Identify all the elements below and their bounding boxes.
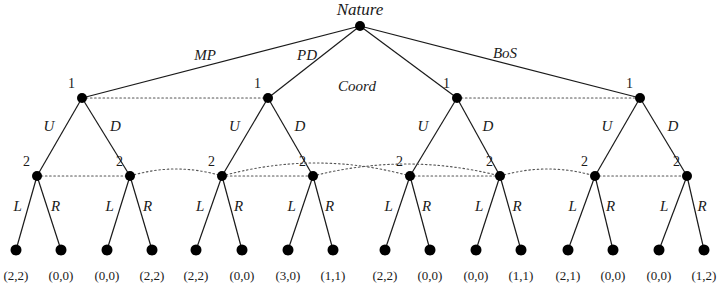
node-terminal-3 (102, 245, 113, 256)
label-action-R-MP-u: R (51, 198, 60, 215)
edge-D-PD (268, 98, 313, 176)
node-player2-Coord-D (495, 171, 505, 181)
node-player1-PD (263, 93, 273, 103)
label-player2-Coord-D: 2 (486, 154, 493, 170)
tree-edges (16, 26, 704, 250)
payoff-8: (1,1) (321, 268, 346, 284)
node-terminal-4 (147, 245, 158, 256)
payoff-13: (2,1) (556, 268, 581, 284)
payoff-14: (0,0) (601, 268, 626, 284)
label-action-R-MP-d: R (143, 198, 152, 215)
node-terminal-12 (516, 245, 527, 256)
label-action-R-PD-u: R (234, 198, 243, 215)
label-action-L-Coord-d: L (475, 198, 483, 215)
edge-U-BoS (595, 98, 640, 176)
node-nature (355, 21, 365, 31)
game-tree-figure: NatureMPPDCoordBoS122UD122UD122UD122UDLR… (0, 0, 723, 286)
label-player1-MP: 1 (68, 76, 75, 92)
infoset-arc-1 (130, 169, 222, 176)
node-player2-MP-U (32, 171, 42, 181)
payoff-6: (0,0) (230, 268, 255, 284)
label-player1-PD: 1 (254, 76, 261, 92)
label-action-R-PD-d: R (325, 198, 334, 215)
node-terminal-6 (237, 245, 248, 256)
node-player2-PD-U (217, 171, 227, 181)
label-action-L-Coord-u: L (385, 198, 393, 215)
label-action-R-Coord-d: R (513, 198, 522, 215)
edge-D-Coord (457, 98, 500, 176)
node-player2-Coord-U (405, 171, 415, 181)
label-action-D-BoS: D (668, 118, 679, 135)
payoff-5: (2,2) (184, 268, 209, 284)
label-action-L-MP-d: L (106, 198, 114, 215)
payoff-row: (2,2)(0,0)(0,0)(2,2)(2,2)(0,0)(3,0)(1,1)… (0, 268, 723, 286)
node-terminal-11 (471, 245, 482, 256)
node-player2-BoS-D (682, 171, 692, 181)
label-branch-BoS: BoS (493, 45, 517, 62)
node-terminal-1 (11, 245, 22, 256)
label-action-D-MP: D (110, 118, 121, 135)
node-player1-MP (77, 93, 87, 103)
label-player2-MP-U: 2 (23, 154, 30, 170)
label-action-L-MP-u: L (14, 198, 22, 215)
infoset-arc-4 (500, 169, 595, 176)
node-terminal-5 (191, 245, 202, 256)
label-action-R-BoS-d: R (698, 198, 707, 215)
node-terminal-13 (563, 245, 574, 256)
label-player2-MP-D: 2 (116, 154, 123, 170)
node-player2-MP-D (125, 171, 135, 181)
node-player2-PD-D (308, 171, 318, 181)
label-player2-BoS-U: 2 (581, 154, 588, 170)
edge-U-PD (222, 98, 268, 176)
payoff-16: (1,2) (692, 268, 717, 284)
payoff-11: (0,0) (464, 268, 489, 284)
payoff-1: (2,2) (4, 268, 29, 284)
node-terminal-15 (654, 245, 665, 256)
payoff-9: (2,2) (373, 268, 398, 284)
payoff-12: (1,1) (509, 268, 534, 284)
node-terminal-16 (699, 245, 710, 256)
node-player1-Coord (452, 93, 462, 103)
label-branch-PD: PD (297, 47, 317, 64)
label-player1-BoS: 1 (626, 76, 633, 92)
nature-edge-BoS (360, 26, 640, 98)
edge-U-MP (37, 98, 82, 176)
node-terminal-7 (283, 245, 294, 256)
payoff-2: (0,0) (49, 268, 74, 284)
information-set-links (37, 98, 687, 176)
node-player1-BoS (635, 93, 645, 103)
label-action-U-PD: U (229, 118, 240, 135)
node-terminal-8 (328, 245, 339, 256)
payoff-7: (3,0) (276, 268, 301, 284)
label-action-L-BoS-u: L (569, 198, 577, 215)
label-action-U-MP: U (44, 118, 55, 135)
node-terminal-9 (380, 245, 391, 256)
label-branch-Coord: Coord (338, 78, 376, 95)
tree-nodes (11, 21, 710, 256)
label-action-R-Coord-u: R (422, 198, 431, 215)
payoff-15: (0,0) (647, 268, 672, 284)
label-player2-PD-D: 2 (299, 154, 306, 170)
label-player2-PD-U: 2 (208, 154, 215, 170)
label-player2-Coord-U: 2 (396, 154, 403, 170)
label-action-D-Coord: D (483, 118, 494, 135)
label-action-U-Coord: U (418, 118, 429, 135)
label-nature: Nature (337, 0, 384, 20)
label-action-D-PD: D (295, 118, 306, 135)
node-terminal-2 (56, 245, 67, 256)
label-action-L-PD-d: L (288, 198, 296, 215)
node-terminal-10 (425, 245, 436, 256)
payoff-3: (0,0) (95, 268, 120, 284)
node-player2-BoS-U (590, 171, 600, 181)
label-action-L-PD-u: L (196, 198, 204, 215)
label-action-L-BoS-d: L (660, 198, 668, 215)
tree-canvas (0, 0, 723, 286)
label-branch-MP: MP (194, 47, 216, 64)
label-action-R-BoS-u: R (606, 198, 615, 215)
label-action-U-BoS: U (602, 118, 613, 135)
label-player2-BoS-D: 2 (673, 154, 680, 170)
payoff-4: (2,2) (140, 268, 165, 284)
label-player1-Coord: 1 (443, 76, 450, 92)
nature-edge-MP (82, 26, 360, 98)
node-terminal-14 (608, 245, 619, 256)
